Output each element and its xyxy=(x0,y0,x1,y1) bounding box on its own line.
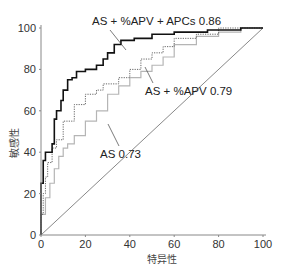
y-tick-label: 60 xyxy=(24,105,36,117)
y-tick-label: 80 xyxy=(24,63,36,75)
annotation-dotted: AS + %APV 0.79 xyxy=(145,85,232,97)
x-tick-label: 0 xyxy=(38,238,44,250)
leader-gray xyxy=(108,124,119,146)
x-tick-label: 80 xyxy=(212,238,224,250)
roc-chart: 020406080100020406080100 AS + %APV + APC… xyxy=(0,0,284,275)
x-tick-label: 60 xyxy=(168,238,180,250)
y-tick-label: 20 xyxy=(24,188,36,200)
annotation-gray: AS 0.73 xyxy=(100,148,141,160)
plot-area xyxy=(41,28,263,235)
y-tick-label: 0 xyxy=(30,229,36,241)
annotation-black: AS + %APV + APCs 0.86 xyxy=(92,15,221,27)
roc-curve-thin-diagonal xyxy=(41,28,263,235)
y-tick-label: 100 xyxy=(18,22,36,34)
x-tick-label: 100 xyxy=(254,238,272,250)
y-axis-title: 敏感性 xyxy=(8,128,20,158)
axes: 020406080100020406080100 xyxy=(18,22,273,250)
x-tick-label: 40 xyxy=(124,238,136,250)
x-tick-label: 20 xyxy=(79,238,91,250)
y-tick-label: 40 xyxy=(24,146,36,158)
x-axis-title: 特异性 xyxy=(147,253,177,265)
